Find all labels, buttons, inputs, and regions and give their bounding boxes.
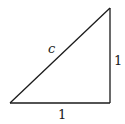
hypotenuse xyxy=(10,8,110,103)
triangle-figure xyxy=(0,0,125,124)
horizontal-leg-label: 1 xyxy=(58,108,66,121)
right-triangle-diagram: c 1 1 xyxy=(0,0,125,124)
hypotenuse-label: c xyxy=(48,42,55,55)
vertical-leg-label: 1 xyxy=(114,54,122,67)
